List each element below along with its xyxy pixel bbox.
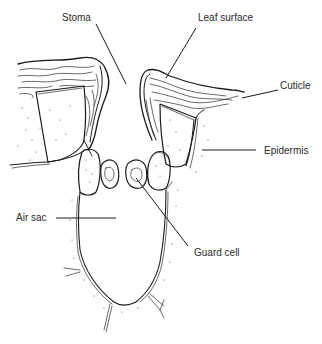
leader-stoma xyxy=(96,24,126,84)
leader-guard-cell xyxy=(136,178,188,246)
label-air-sac: Air sac xyxy=(16,212,47,224)
left-subsidiary-cell xyxy=(79,149,100,195)
right-guard-cell[interactable] xyxy=(126,160,147,188)
label-cuticle: Cuticle xyxy=(280,80,311,92)
left-guard-cell[interactable] xyxy=(101,160,119,188)
right-subsidiary-cell xyxy=(148,152,171,191)
left-epidermal-cell xyxy=(36,86,86,162)
right-epidermal-cell xyxy=(160,104,204,168)
label-stoma: Stoma xyxy=(62,12,91,24)
label-leaf-surface: Leaf surface xyxy=(198,12,253,24)
label-epidermis: Epidermis xyxy=(264,145,308,157)
label-guard-cell: Guard cell xyxy=(194,247,240,259)
right-cuticle xyxy=(140,69,244,140)
leader-leaf-surface xyxy=(166,28,196,78)
left-cuticle xyxy=(18,57,109,150)
leader-cuticle xyxy=(242,90,278,98)
stoma-diagram xyxy=(0,0,322,344)
stipple-texture xyxy=(17,105,208,312)
